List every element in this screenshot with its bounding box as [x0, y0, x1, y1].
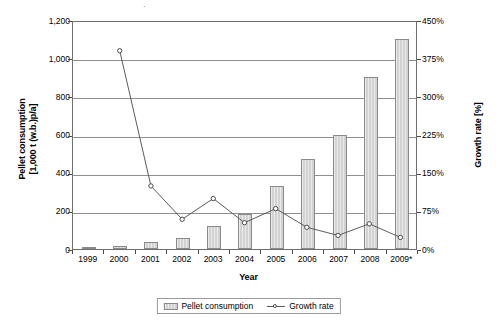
chart-container: · Pellet consumption [1,000 t (w.b.)p/a]…	[0, 0, 497, 327]
y-axis-right-tick-label: 75%	[422, 207, 482, 216]
y-axis-left-tick-mark	[68, 212, 72, 213]
x-axis-tick-label: 2009*	[381, 254, 421, 264]
x-axis-tick-mark	[135, 250, 136, 254]
x-axis-tick-mark	[386, 250, 387, 254]
legend-label-pellet-consumption: Pellet consumption	[181, 301, 253, 311]
plot-inner	[73, 22, 416, 249]
y-axis-left-tick-label: 200	[10, 207, 70, 216]
y-axis-right-tick-label: 225%	[422, 131, 482, 140]
y-axis-right-tick-mark	[417, 212, 421, 213]
y-axis-left-tick-label: 1,000	[10, 55, 70, 64]
y-axis-left-tick-mark	[68, 136, 72, 137]
y-axis-right-tick-label: 300%	[422, 93, 482, 102]
data-point-marker	[336, 233, 340, 237]
legend-item-pellet-consumption: Pellet consumption	[163, 301, 253, 311]
y-axis-left-tick-mark	[68, 59, 72, 60]
y-axis-right-tick-label: 450%	[422, 17, 482, 26]
data-point-marker	[180, 217, 184, 221]
x-axis-tick-mark	[323, 250, 324, 254]
y-axis-left-tick-label: 400	[10, 169, 70, 178]
x-axis-tick-mark	[229, 250, 230, 254]
x-axis-tick-mark	[103, 250, 104, 254]
y-axis-left-tick-mark	[68, 174, 72, 175]
x-axis-tick-mark	[198, 250, 199, 254]
y-axis-left-tick-label: 800	[10, 93, 70, 102]
x-axis-tick-mark	[166, 250, 167, 254]
x-axis-tick-mark	[292, 250, 293, 254]
y-axis-left-tick-mark	[68, 97, 72, 98]
data-point-marker	[398, 235, 402, 239]
y-axis-right-tick-mark	[417, 136, 421, 137]
data-point-marker	[305, 225, 309, 229]
y-axis-left-tick-mark	[68, 21, 72, 22]
y-axis-left-tick-label: 600	[10, 131, 70, 140]
x-axis-title: Year	[0, 272, 497, 282]
data-point-marker	[367, 222, 371, 226]
x-axis-tick-mark	[417, 250, 418, 254]
x-axis-tick-mark	[260, 250, 261, 254]
growth-rate-markers	[118, 49, 403, 240]
plot-area	[72, 21, 417, 250]
data-point-marker	[242, 221, 246, 225]
data-point-marker	[274, 206, 278, 210]
data-point-marker	[118, 49, 122, 53]
y-axis-left-tick-label: 1,200	[10, 17, 70, 26]
y-axis-right-tick-mark	[417, 59, 421, 60]
y-axis-left-tick-label: 0	[10, 246, 70, 255]
chart-title-mark: ·	[143, 2, 146, 11]
data-point-marker	[149, 184, 153, 188]
bar-swatch-icon	[163, 303, 177, 310]
y-axis-right-tick-label: 150%	[422, 169, 482, 178]
y-axis-right-tick-mark	[417, 97, 421, 98]
x-axis-tick-mark	[354, 250, 355, 254]
y-axis-right-tick-label: 0%	[422, 246, 482, 255]
legend-item-growth-rate: Growth rate	[267, 301, 333, 311]
x-axis-tick-mark	[72, 250, 73, 254]
y-axis-right-tick-label: 375%	[422, 55, 482, 64]
y-axis-right-tick-mark	[417, 21, 421, 22]
data-point-marker	[211, 196, 215, 200]
y-axis-right-tick-mark	[417, 174, 421, 175]
line-circle-swatch-icon	[267, 303, 285, 310]
legend-label-growth-rate: Growth rate	[289, 301, 333, 311]
chart-legend: Pellet consumption Growth rate	[156, 298, 340, 314]
growth-rate-line	[120, 51, 401, 238]
line-series	[73, 22, 416, 249]
